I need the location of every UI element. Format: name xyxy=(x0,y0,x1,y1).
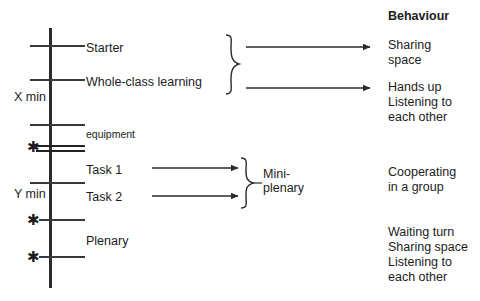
behaviour-entry-4-line-1: Waiting turn xyxy=(388,225,454,239)
behaviour-entry-1-line-1: Sharing xyxy=(388,38,431,52)
segment-label-plenary: Plenary xyxy=(86,234,128,248)
behaviour-entry-2-line-3: each other xyxy=(388,110,447,124)
diagram-canvas: ✱ ✱ ✱ X min Y min Starter Whole-class le… xyxy=(0,0,480,301)
asterisk-mid-icon: ✱ xyxy=(27,212,40,227)
group-label-mini: Mini- xyxy=(263,167,290,181)
group-label-plenary: plenary xyxy=(263,181,304,195)
behaviour-entry-4-line-3: Listening to xyxy=(388,255,452,269)
timeline-axis xyxy=(49,28,52,288)
tick-starter-top xyxy=(30,45,85,47)
tick-wholeclass-bottom xyxy=(30,124,85,126)
behaviour-entry-2-line-1: Hands up xyxy=(388,80,442,94)
segment-label-equipment: equipment xyxy=(86,128,135,140)
tick-wholeclass-top xyxy=(30,79,85,81)
tick-equipment-lower xyxy=(36,150,85,152)
segment-label-starter: Starter xyxy=(86,41,124,55)
brace-mini-plenary-group xyxy=(241,158,262,208)
duration-label-y: Y min xyxy=(14,187,46,201)
tick-plenary-bottom xyxy=(39,256,85,258)
brace-whole-class-group xyxy=(226,35,239,94)
segment-label-task-2: Task 2 xyxy=(86,190,122,204)
behaviour-entry-1-line-2: space xyxy=(388,53,421,67)
tick-task2-bottom xyxy=(39,219,85,221)
tick-equipment-upper xyxy=(36,145,85,147)
tick-task1-bottom xyxy=(30,182,85,184)
duration-label-x: X min xyxy=(14,90,46,104)
asterisk-plenary-icon: ✱ xyxy=(27,249,40,264)
segment-label-task-1: Task 1 xyxy=(86,163,122,177)
behaviour-entry-3-line-1: Cooperating xyxy=(388,165,456,179)
behaviour-column-heading: Behaviour xyxy=(388,9,449,23)
behaviour-entry-4-line-2: Sharing space xyxy=(388,240,468,254)
behaviour-entry-2-line-2: Listening to xyxy=(388,95,452,109)
asterisk-equipment-icon: ✱ xyxy=(27,139,40,154)
segment-label-whole-class-learning: Whole-class learning xyxy=(86,75,202,89)
behaviour-entry-3-line-2: in a group xyxy=(388,180,444,194)
behaviour-entry-4-line-4: each other xyxy=(388,270,447,284)
